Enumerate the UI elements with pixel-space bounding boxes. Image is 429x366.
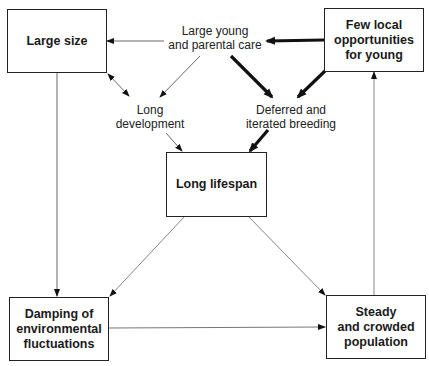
label-large-young: Large young and parental care [162, 24, 268, 52]
arrow-largesize-longdev-bidirectional [108, 74, 129, 96]
arrow-deferred-to-lifespan [250, 130, 268, 151]
box-large-size: Large size [7, 9, 107, 73]
arrow-largeyoung-to-deferred [231, 56, 272, 97]
arrow-fewlocal-to-deferred [298, 71, 325, 97]
label-long-development: Long development [112, 103, 188, 131]
arrow-fewlocal-to-largeyoung [267, 40, 324, 41]
arrow-largeyoung-to-longdev [160, 56, 200, 97]
box-damping-text: Damping of environmental fluctuations [16, 307, 101, 352]
box-damping: Damping of environmental fluctuations [9, 297, 109, 361]
box-large-size-text: Large size [26, 34, 87, 49]
arrow-longdev-to-lifespan [166, 133, 182, 151]
arrow-damping-to-steady [108, 327, 325, 328]
box-long-lifespan: Long lifespan [166, 152, 267, 217]
arrow-lifespan-to-damping [110, 216, 185, 296]
box-few-local-text: Few local opportunities for young [334, 18, 414, 63]
box-steady-crowded: Steady and crowded population [326, 295, 426, 359]
box-few-local-opportunities: Few local opportunities for young [324, 8, 424, 72]
box-steady-text: Steady and crowded population [337, 305, 414, 350]
label-deferred-breeding: Deferred and iterated breeding [236, 103, 346, 131]
box-long-lifespan-text: Long lifespan [176, 177, 257, 192]
arrow-lifespan-to-steady [248, 216, 325, 295]
